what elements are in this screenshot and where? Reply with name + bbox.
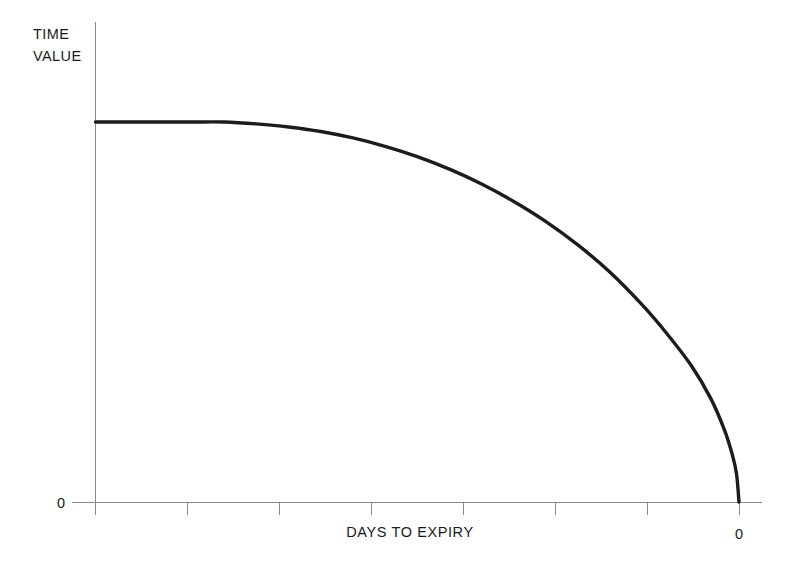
chart-canvas: TIME VALUE 0 DAYS TO EXPIRY 0	[0, 0, 798, 568]
y-axis-zero-label: 0	[57, 495, 65, 511]
x-axis-title: DAYS TO EXPIRY	[346, 524, 473, 540]
y-axis-title-line1: TIME	[33, 26, 69, 42]
x-axis-zero-label: 0	[735, 526, 743, 542]
x-axis-ticks	[96, 502, 740, 515]
time-value-decay-chart: TIME VALUE 0 DAYS TO EXPIRY 0	[0, 0, 798, 568]
time-value-decay-curve	[96, 122, 740, 502]
y-axis-title-line2: VALUE	[33, 48, 81, 64]
